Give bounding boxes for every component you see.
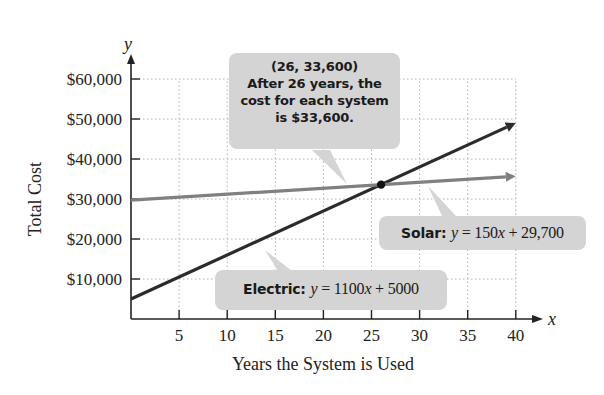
y-axis-variable: y: [122, 34, 132, 54]
electric-callout-pointer: [265, 250, 292, 271]
x-tick-label: 40: [507, 326, 524, 345]
y-tick-label: $10,000: [67, 270, 122, 289]
intersection-text-line: After 26 years, the: [237, 75, 392, 92]
y-tick-label: $60,000: [67, 70, 122, 89]
x-axis-title: Years the System is Used: [232, 354, 414, 374]
y-tick-label: $20,000: [67, 230, 122, 249]
solar-line-arrow-icon: [506, 172, 516, 182]
intersection-text-line: cost for each system: [237, 92, 392, 109]
electric-equation: y = 1100x + 5000: [310, 280, 418, 297]
intersection-text-line: is $33,600.: [237, 109, 392, 126]
y-axis-arrow-icon: [127, 54, 135, 64]
intersection-point: [377, 180, 385, 188]
solar-equation: y = 150x + 29,700: [451, 224, 564, 241]
y-tick-label: $30,000: [67, 190, 122, 209]
y-axis-title: Total Cost: [25, 162, 45, 236]
electric-callout: Electric: y = 1100x + 5000: [215, 270, 447, 310]
intersection-callout: (26, 33,600) After 26 years, the cost fo…: [229, 53, 400, 149]
y-tick-label: $40,000: [67, 150, 122, 169]
x-tick-label: 15: [267, 326, 284, 345]
x-axis-arrow-icon: [532, 315, 543, 323]
x-tick-label: 10: [219, 326, 236, 345]
x-tick-label: 5: [175, 326, 184, 345]
x-tick-label: 35: [459, 326, 476, 345]
intersection-dot: [377, 180, 385, 188]
solar-line: [131, 177, 506, 200]
x-tick-label: 25: [363, 326, 380, 345]
electric-label: Electric:: [243, 281, 306, 297]
y-tick-label: $50,000: [67, 110, 122, 129]
solar-callout: Solar: y = 150x + 29,700: [379, 216, 586, 250]
x-tick-label: 30: [411, 326, 428, 345]
intersection-coordinates: (26, 33,600): [237, 58, 392, 75]
solar-label: Solar:: [401, 225, 446, 241]
solar-callout-pointer: [428, 186, 456, 216]
x-axis-variable: x: [547, 309, 556, 329]
x-tick-label: 20: [315, 326, 332, 345]
intersection-callout-pointer: [312, 150, 347, 184]
